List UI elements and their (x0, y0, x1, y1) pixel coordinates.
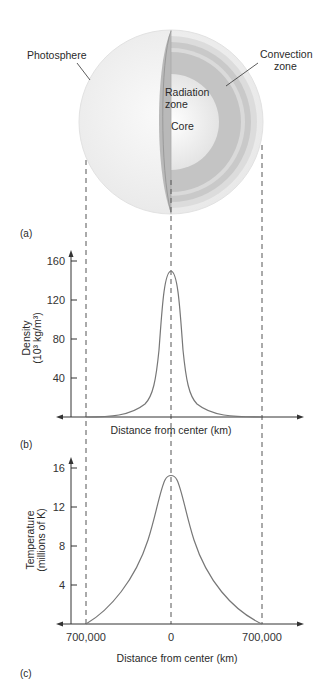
photosphere-leader-line (77, 63, 90, 80)
temperature-chart: 4 8 12 16 Temperature (millions of K) 70… (20, 457, 304, 679)
x-tick-left-700000: 700,000 (66, 631, 106, 643)
panel-c-label: (c) (20, 668, 32, 679)
density-curve (86, 271, 262, 417)
svg-text:(10³ kg/m³): (10³ kg/m³) (31, 312, 43, 363)
temperature-x-ticks: 700,000 0 700,000 (66, 631, 282, 643)
x-tick-zero: 0 (168, 631, 174, 643)
density-tick-120: 120 (47, 294, 65, 306)
density-tick-80: 80 (53, 333, 65, 345)
panel-a-label: (a) (20, 228, 32, 239)
temperature-curve (86, 476, 262, 625)
convection-label-line2: zone (274, 60, 297, 72)
density-y-arrow-icon (69, 250, 74, 257)
temperature-tick-8: 8 (59, 540, 65, 552)
density-y-ticks: 40 80 120 160 (47, 255, 77, 384)
temperature-y-ticks: 4 8 12 16 (53, 462, 77, 591)
guide-lines (86, 145, 262, 624)
temperature-x-right-arrow-icon (297, 622, 304, 627)
density-chart: 40 80 120 160 Density (10³ kg/m³) Distan… (20, 250, 304, 450)
panel-b-label: (b) (20, 439, 32, 450)
density-tick-160: 160 (47, 255, 65, 267)
photosphere-label: Photosphere (27, 49, 87, 61)
temperature-y-arrow-icon (69, 457, 74, 464)
density-x-left-arrow-icon (56, 415, 63, 420)
temperature-tick-12: 12 (53, 501, 65, 513)
radiation-label-line1: Radiation (165, 86, 210, 98)
temperature-tick-16: 16 (53, 462, 65, 474)
temperature-tick-4: 4 (59, 579, 65, 591)
convection-label-line1: Convection (260, 48, 313, 60)
sun-cutaway-diagram: Photosphere Convection zone Radiation zo… (20, 30, 313, 239)
temperature-y-label: Temperature (millions of K) (24, 508, 47, 572)
density-x-label: Distance from center (km) (111, 424, 232, 436)
x-tick-right-700000: 700,000 (242, 631, 282, 643)
temperature-x-left-arrow-icon (56, 622, 63, 627)
radiation-label-line2: zone (165, 98, 188, 110)
density-tick-40: 40 (53, 372, 65, 384)
svg-text:(millions of K): (millions of K) (35, 508, 47, 572)
core-label: Core (171, 120, 194, 132)
density-x-right-arrow-icon (297, 415, 304, 420)
sun-structure-figure: Photosphere Convection zone Radiation zo… (0, 0, 325, 692)
density-y-label: Density (10³ kg/m³) (20, 312, 43, 363)
temperature-x-label: Distance from center (km) (117, 652, 238, 664)
